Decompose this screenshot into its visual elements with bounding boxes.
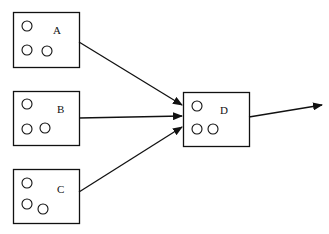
node-c: C bbox=[14, 170, 80, 224]
node-b-label: B bbox=[57, 103, 64, 115]
node-b: B bbox=[14, 92, 80, 146]
node-a-label: A bbox=[53, 24, 61, 36]
edge-c-to-d bbox=[79, 127, 182, 192]
node-d-label: D bbox=[220, 104, 228, 116]
diagram-canvas: A B C D bbox=[0, 0, 329, 234]
node-a: A bbox=[14, 13, 80, 68]
edge-d-to-output bbox=[249, 105, 322, 117]
edge-b-to-d bbox=[79, 116, 182, 118]
node-c-label: C bbox=[57, 183, 64, 195]
edge-a-to-d bbox=[79, 42, 182, 105]
node-d: D bbox=[184, 93, 250, 147]
